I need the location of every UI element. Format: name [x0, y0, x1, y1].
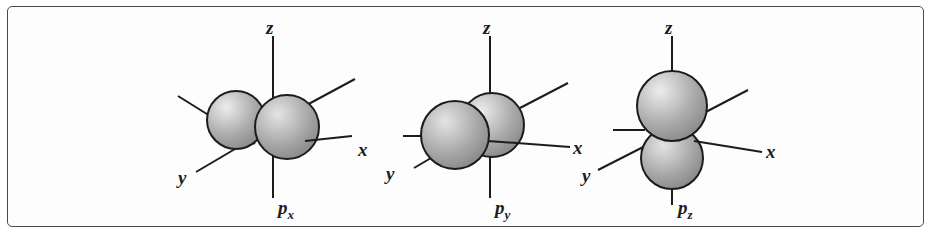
diagram-pz	[598, 36, 762, 205]
orbital-label-subscript: x	[288, 207, 295, 222]
orbital-lobe-front	[255, 95, 319, 159]
diagram-px	[178, 36, 355, 198]
orbital-label-pz: pz	[678, 198, 693, 221]
orbital-label-base: p	[495, 197, 505, 218]
axis-label-y: y	[178, 168, 186, 187]
axis-label-z: z	[483, 18, 490, 37]
axis-label-y: y	[582, 166, 590, 185]
axis-label-x: x	[573, 138, 583, 157]
orbital-lobe-top	[637, 71, 707, 141]
orbital-label-subscript: y	[505, 207, 511, 222]
orbital-figure: z x y px z x y py z x y pz	[0, 0, 942, 237]
orbital-label-px: px	[278, 198, 294, 221]
orbital-label-subscript: z	[688, 207, 693, 222]
orbital-label-base: p	[278, 197, 288, 218]
axis-label-z: z	[266, 18, 273, 37]
axis-label-x: x	[358, 140, 368, 159]
axis-line-x-back	[520, 83, 568, 108]
axis-line-x-back	[303, 79, 355, 107]
axis-line-x-front	[694, 141, 762, 152]
diagram-stage: z x y px z x y py z x y pz	[0, 0, 942, 237]
orbital-label-py: py	[495, 198, 510, 221]
orbital-label-base: p	[678, 197, 688, 218]
axis-label-x: x	[766, 142, 776, 161]
orbital-graphics	[0, 0, 942, 237]
axis-label-y: y	[386, 164, 394, 183]
orbital-lobe-front	[421, 101, 489, 169]
axis-label-z: z	[665, 18, 672, 37]
diagram-py	[403, 36, 570, 198]
